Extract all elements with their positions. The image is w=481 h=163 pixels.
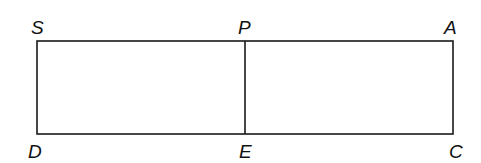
- label-p: P: [238, 17, 251, 38]
- label-a: A: [443, 17, 457, 38]
- label-c: C: [449, 141, 463, 162]
- diagram-canvas: S P A D E C: [0, 0, 481, 163]
- label-e: E: [239, 141, 252, 162]
- label-s: S: [31, 17, 44, 38]
- label-d: D: [28, 141, 42, 162]
